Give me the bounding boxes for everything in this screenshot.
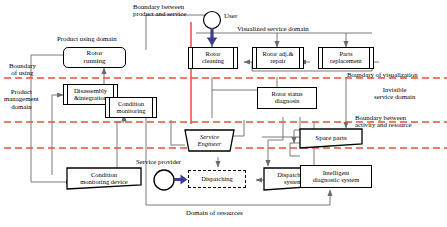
node-spare-parts-label: Spare parts bbox=[314, 135, 347, 142]
caption-product-management-domain: Product management domain bbox=[4, 88, 39, 110]
node-spare-parts[interactable]: Spare parts bbox=[299, 128, 363, 149]
node-rotor-cleaning-label: Rotorcleaning bbox=[201, 51, 225, 65]
caption-boundary-activity-resource: Boundary between activity and resource bbox=[355, 114, 412, 129]
node-dispatching[interactable]: Dispatching bbox=[188, 170, 246, 188]
node-rotor-cleaning[interactable]: Rotorcleaning bbox=[188, 47, 238, 69]
node-rotor-adj-repair[interactable]: Rotor adj.&repair bbox=[252, 47, 304, 69]
actor-service-provider bbox=[152, 168, 176, 192]
service-provider-right-arrow-icon bbox=[174, 174, 188, 185]
caption-invisible-service-domain: Invisible service domain bbox=[374, 86, 415, 101]
node-condition-monitoring-label: Conditionmonitoring bbox=[116, 101, 147, 115]
node-dispatching-label: Dispatching bbox=[200, 176, 233, 183]
node-rotor-adj-repair-label: Rotor adj.&repair bbox=[261, 51, 294, 65]
service-architecture-diagram: User Rotorrunning Disassembly&integratio… bbox=[0, 0, 447, 227]
caption-product-using-domain: Product using domain bbox=[57, 35, 117, 42]
node-condition-monitoring[interactable]: Conditionmonitoring bbox=[105, 97, 157, 118]
node-parts-replacement[interactable]: Partsreplacement bbox=[318, 47, 374, 69]
node-rotor-running-label: Rotorrunning bbox=[83, 50, 107, 65]
service-provider-icon bbox=[152, 168, 176, 192]
caption-boundary-product-service: Boundary between product and service bbox=[133, 3, 186, 18]
node-rotor-status-diagnosis[interactable]: Rotor statusdiagnosis bbox=[257, 87, 317, 109]
node-rotor-status-diagnosis-label: Rotor statusdiagnosis bbox=[270, 91, 303, 105]
caption-domain-of-resources: Domain of resources bbox=[186, 209, 243, 216]
node-service-engineer-label: ServiceEngineer bbox=[197, 134, 223, 148]
caption-service-provider: Service provider bbox=[136, 158, 181, 165]
caption-visualized-service-domain: Visualized service domain bbox=[237, 25, 309, 32]
node-intelligent-diagnostic-system-label: Intelligentdiagnostic system bbox=[312, 170, 360, 184]
user-down-arrow-icon bbox=[205, 28, 219, 46]
node-condition-monitoring-device-label: Conditionmonitoring device bbox=[79, 172, 128, 186]
node-intelligent-diagnostic-system[interactable]: Intelligentdiagnostic system bbox=[300, 165, 372, 188]
user-icon bbox=[200, 10, 224, 30]
node-parts-replacement-label: Partsreplacement bbox=[329, 51, 363, 65]
node-condition-monitoring-device[interactable]: Conditionmonitoring device bbox=[66, 167, 142, 190]
label-user: User bbox=[224, 13, 237, 21]
caption-boundary-of-visualization: Boundary of visualization bbox=[347, 71, 418, 78]
node-service-engineer[interactable]: ServiceEngineer bbox=[184, 129, 235, 152]
node-rotor-running[interactable]: Rotorrunning bbox=[63, 47, 126, 68]
node-disassembly-integration-label: Disassembly&integration bbox=[73, 88, 108, 102]
actor-user bbox=[200, 10, 224, 30]
caption-boundary-of-using: Boundary of using bbox=[9, 62, 36, 77]
